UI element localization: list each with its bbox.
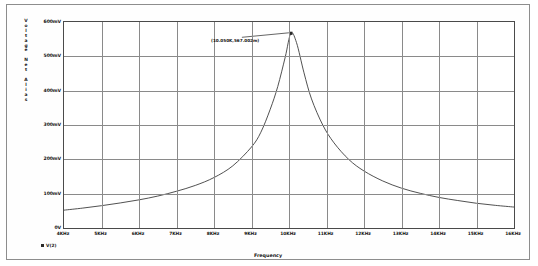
gridline-horizontal	[64, 56, 514, 57]
x-tick-label: 13KHz	[393, 231, 409, 236]
x-tick-label: 15KHz	[468, 231, 484, 236]
legend[interactable]: V(2)	[41, 243, 56, 248]
y-tick-label: 100mV	[44, 190, 61, 195]
y-tick-label: 200mV	[44, 156, 61, 161]
y-tick-label: 400mV	[44, 87, 61, 92]
gridline-horizontal	[64, 125, 514, 126]
x-tick-label: 11KHz	[318, 231, 334, 236]
x-axis-tick-labels: 4KHz5KHz6KHz7KHz8KHz9KHz10KHz11KHz12KHz1…	[63, 231, 515, 241]
x-tick-label: 5KHz	[94, 231, 107, 236]
x-tick-label: 7KHz	[169, 231, 182, 236]
y-tick-label: 0V	[54, 225, 61, 230]
legend-label: V(2)	[46, 243, 56, 248]
annotation-leader-line	[242, 33, 289, 38]
x-tick-label: 14KHz	[430, 231, 446, 236]
cursor-annotation: (10.050K,567.002m)	[211, 38, 259, 43]
gridline-horizontal	[64, 91, 514, 92]
x-tick-label: 8KHz	[207, 231, 220, 236]
y-tick-label: 300mV	[44, 122, 61, 127]
x-tick-label: 9KHz	[244, 231, 257, 236]
y-tick-label: 600mV	[44, 19, 61, 24]
x-tick-label: 12KHz	[355, 231, 371, 236]
gridline-horizontal	[64, 159, 514, 160]
y-axis-tick-labels: 600mV500mV400mV300mV200mV100mV0V	[7, 21, 61, 229]
y-tick-label: 500mV	[44, 53, 61, 58]
x-tick-label: 6KHz	[132, 231, 145, 236]
x-axis-title: Frequency	[7, 253, 529, 258]
x-tick-label: 4KHz	[57, 231, 70, 236]
x-tick-label: 16KHz	[505, 231, 521, 236]
x-tick-label: 10KHz	[280, 231, 296, 236]
plot-area	[63, 21, 515, 229]
gridline-horizontal	[64, 194, 514, 195]
figure-frame: VoltageNetAlias 600mV500mV400mV300mV200m…	[6, 4, 530, 260]
legend-marker-icon	[41, 244, 44, 247]
